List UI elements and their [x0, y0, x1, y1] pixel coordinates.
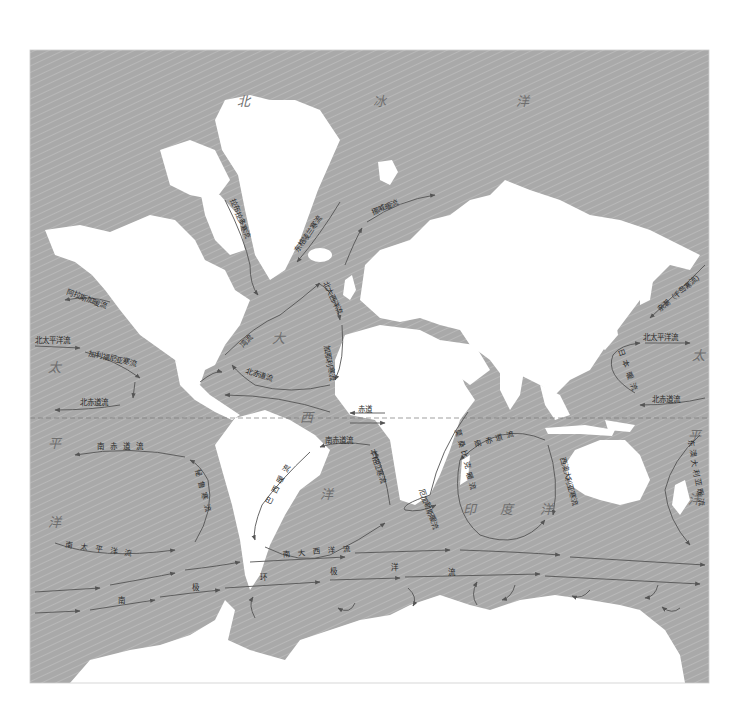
ocean-label-atlantic: 洋	[320, 487, 335, 502]
label-north-equatorial-pacific-west: 北赤道流	[652, 394, 681, 404]
label-north-equatorial-pacific-east: 北赤道流	[80, 397, 109, 407]
label-antarctic-circumpolar: 极	[330, 566, 338, 576]
ocean-currents-map: 赤道 北 冰 洋 大 西 洋 太 平 洋 太 平 洋 印 度 洋	[0, 0, 732, 721]
ocean-label-indian: 度	[500, 502, 515, 517]
label-south-equatorial-pacific: 南赤道流	[97, 441, 149, 451]
ocean-label-pacific-east: 太	[692, 348, 707, 363]
ocean-label-arctic: 北	[237, 94, 252, 109]
ocean-label-indian: 印	[463, 502, 478, 517]
ocean-label-atlantic: 西	[300, 410, 315, 425]
ocean-label-atlantic: 大	[272, 331, 287, 346]
label-antarctic-circumpolar: 环	[260, 573, 268, 582]
land-iceland	[308, 248, 332, 262]
label-north-pacific-current-west: 北太平洋流	[643, 332, 679, 342]
label-north-pacific-current-east: 北太平洋流	[35, 335, 71, 345]
label-south-equatorial-atlantic: 南赤道流	[325, 435, 354, 445]
ocean-label-pacific-west: 太	[48, 360, 63, 375]
label-antarctic-circumpolar: 流	[448, 567, 456, 577]
ocean-label-arctic: 冰	[373, 94, 388, 109]
label-antarctic-circumpolar: 极	[192, 582, 200, 592]
equator-label: 赤道	[358, 404, 373, 414]
ocean-label-pacific-west: 平	[48, 436, 63, 451]
ocean-label-pacific-west: 洋	[48, 515, 63, 530]
ocean-label-arctic: 洋	[516, 94, 531, 109]
label-antarctic-circumpolar: 洋	[391, 562, 399, 572]
label-antarctic-circumpolar: 南	[118, 595, 126, 605]
